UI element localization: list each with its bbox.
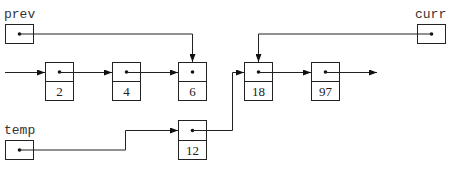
node-value: 97: [319, 84, 333, 99]
pointer-curr-arrow: [259, 34, 432, 62]
node-value: 12: [186, 143, 199, 158]
node-18: 18: [245, 63, 273, 101]
linked-list-diagram: prev curr temp 2 4 6: [0, 0, 454, 174]
node-value: 18: [252, 84, 265, 99]
node-6: 6: [179, 63, 207, 101]
pointer-temp-label: temp: [4, 123, 35, 138]
pointer-prev-arrow: [20, 34, 193, 62]
node-value: 2: [56, 84, 63, 99]
pointer-curr-label: curr: [415, 7, 446, 22]
pointer-temp: temp: [4, 123, 178, 160]
pointer-temp-arrow: [20, 131, 179, 151]
node-4: 4: [113, 63, 141, 101]
node-12: 12: [179, 121, 207, 160]
node-dot: [191, 70, 195, 74]
node-value: 6: [189, 84, 196, 99]
node-value: 4: [123, 84, 130, 99]
pointer-curr: curr: [259, 7, 447, 62]
pointer-prev-label: prev: [4, 7, 35, 22]
node-97: 97: [312, 63, 340, 101]
node-2: 2: [46, 63, 74, 101]
pointer-prev: prev: [4, 7, 193, 62]
